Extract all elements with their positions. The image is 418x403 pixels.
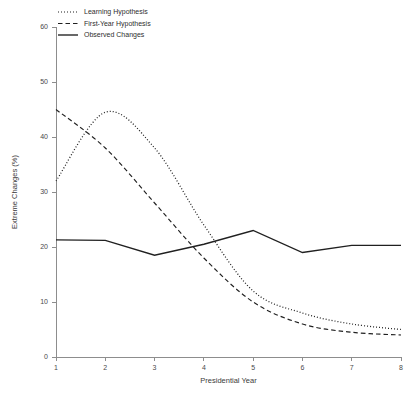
x-tick-label: 8 <box>399 364 403 371</box>
y-tick-label: 50 <box>40 78 48 85</box>
y-tick-label: 30 <box>40 188 48 195</box>
x-tick-label: 3 <box>153 364 157 371</box>
x-tick-label: 4 <box>202 364 206 371</box>
x-tick-label: 2 <box>103 364 107 371</box>
y-tick-label: 10 <box>40 298 48 305</box>
y-tick-label: 20 <box>40 243 48 250</box>
chart-container: 010203040506012345678Presidential YearEx… <box>0 0 418 403</box>
y-tick-label: 60 <box>40 23 48 30</box>
x-axis-title: Presidential Year <box>200 376 257 385</box>
y-tick-label: 0 <box>44 353 48 360</box>
y-tick-label: 40 <box>40 133 48 140</box>
series-line-observed-changes <box>56 231 401 256</box>
legend-label-3: Observed Changes <box>84 31 145 39</box>
x-tick-label: 1 <box>54 364 58 371</box>
series-line-learning-hypothesis <box>56 111 401 329</box>
legend-label-2: First-Year Hypothesis <box>84 20 151 28</box>
y-axis-title: Extreme Changes (%) <box>10 155 19 229</box>
x-tick-label: 7 <box>350 364 354 371</box>
x-tick-label: 5 <box>251 364 255 371</box>
legend-label-1: Learning Hypothesis <box>84 8 148 16</box>
x-tick-label: 6 <box>300 364 304 371</box>
line-chart: 010203040506012345678Presidential YearEx… <box>0 0 418 403</box>
series-line-first-year-hypothesis <box>56 110 401 336</box>
